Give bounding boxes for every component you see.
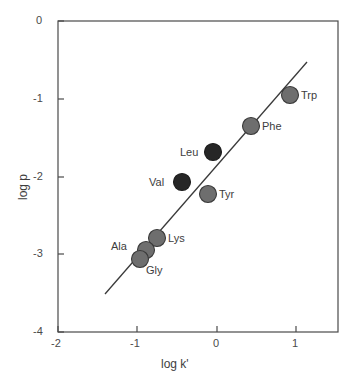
x-tick-label-neg2: -2 (51, 337, 61, 349)
marker-val (174, 174, 191, 191)
marker-leu (205, 144, 222, 161)
point-label-leu: Leu (180, 146, 198, 158)
y-tick-label-0: 0 (36, 14, 42, 26)
point-label-ala: Ala (111, 240, 127, 252)
marker-phe (243, 118, 260, 135)
axis-frame (58, 21, 338, 332)
point-label-val: Val (149, 176, 164, 188)
y-axis-title: log p (16, 174, 30, 200)
point-label-tyr: Tyr (219, 188, 234, 200)
y-tick-label-1: -1 (33, 92, 43, 104)
scatter-plot-figure: 0 -1 -2 -3 -4 -2 -1 0 1 log p log k' Trp… (0, 0, 355, 380)
plot-canvas (0, 0, 355, 380)
y-axis-ticks (58, 21, 64, 332)
point-label-gly: Gly (146, 264, 163, 276)
x-tick-label-1: 1 (292, 337, 298, 349)
x-axis-ticks (58, 326, 296, 332)
x-tick-label-neg1: -1 (130, 337, 140, 349)
point-label-trp: Trp (301, 89, 317, 101)
y-tick-label-3: -3 (33, 247, 43, 259)
x-axis-title: log k' (161, 357, 189, 371)
point-label-lys: Lys (168, 232, 185, 244)
y-tick-label-4: -4 (33, 325, 43, 337)
marker-trp (282, 87, 299, 104)
y-tick-label-2: -2 (33, 170, 43, 182)
x-tick-label-0: 0 (213, 337, 219, 349)
marker-tyr (200, 186, 217, 203)
point-label-phe: Phe (262, 120, 282, 132)
